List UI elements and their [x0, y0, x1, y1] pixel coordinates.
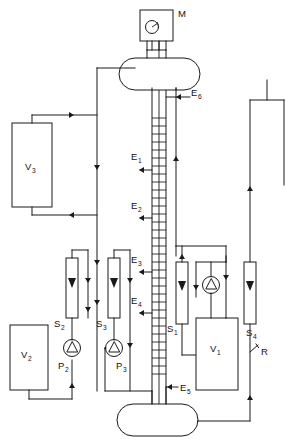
port-e5-sub: 5: [187, 388, 191, 395]
column-s1-sub: 1: [174, 329, 178, 336]
column-s2-label: S: [54, 318, 60, 329]
tap-r-label: R: [261, 346, 268, 357]
port-e6-sub: 6: [198, 93, 202, 100]
vessel-v1-label: V: [210, 343, 217, 354]
column-s4-label: S: [246, 327, 252, 338]
vessel-v2-label: V: [21, 349, 28, 360]
main-column: [152, 40, 166, 404]
tap-r[interactable]: [250, 344, 259, 352]
port-e3-sub: 3: [138, 260, 142, 267]
column-s2[interactable]: [66, 258, 78, 318]
pump-p3-sub: 3: [123, 366, 127, 373]
column-s3[interactable]: [108, 258, 120, 318]
port-e5-label: E: [180, 382, 186, 393]
pipe-right-riser: [173, 88, 179, 256]
top-drum: [119, 58, 200, 90]
column-s1-label: S: [167, 323, 173, 334]
column-s3-label: S: [96, 318, 102, 329]
port-e4-sub: 4: [138, 301, 142, 308]
column-s3-sub: 3: [103, 324, 107, 331]
pump-v1-loop[interactable]: [203, 277, 220, 294]
column-s2-sub: 2: [61, 324, 65, 331]
port-e1: [139, 167, 152, 173]
port-e3-label: E: [131, 254, 137, 265]
vessel-v3-sub: 3: [32, 167, 36, 174]
pipe-s1-bottom: [182, 324, 196, 355]
column-s4-sub: 4: [253, 333, 257, 340]
port-e3: [139, 269, 152, 275]
port-e4: [139, 310, 152, 316]
pipe-v3-inlet: [32, 112, 97, 123]
port-e6-label: E: [191, 87, 197, 98]
port-e1-label: E: [131, 151, 137, 162]
motor-box[interactable]: [140, 10, 173, 58]
vessel-v1-sub: 1: [217, 349, 221, 356]
pipe-v3-outlet: [32, 207, 97, 218]
pump-p3-label: P: [116, 360, 122, 371]
port-e2-label: E: [131, 200, 137, 211]
vessel-v3[interactable]: [12, 123, 52, 207]
port-e4-label: E: [131, 295, 137, 306]
vessel-v3-label: V: [25, 161, 32, 172]
pump-p2-label: P: [58, 360, 64, 371]
pump-p2-sub: 2: [65, 366, 69, 373]
port-e5: [166, 384, 178, 390]
port-e2: [139, 215, 152, 221]
port-e1-sub: 1: [138, 157, 142, 164]
column-s1[interactable]: [176, 262, 188, 324]
motor-label: M: [178, 8, 186, 19]
pump-p2[interactable]: [64, 340, 81, 357]
column-s4[interactable]: [244, 262, 256, 324]
process-flow-diagram: M V 3 V 2: [0, 0, 294, 446]
pump-p3[interactable]: [106, 340, 123, 357]
figure-canvas: M V 3 V 2: [0, 0, 294, 446]
bottom-drum: [117, 404, 198, 436]
port-e2-sub: 2: [138, 206, 142, 213]
pipe-s4-top-header: [247, 80, 284, 262]
port-e6: [166, 94, 190, 100]
vessel-v2-sub: 2: [28, 355, 32, 362]
